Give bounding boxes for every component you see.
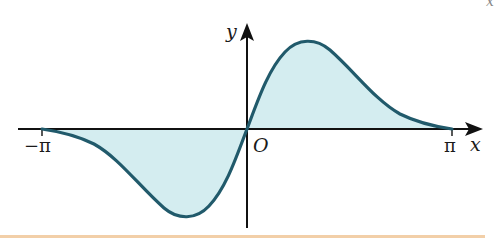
x-axis-label: x: [470, 133, 481, 155]
function-graph: y x O −π π x: [0, 0, 497, 241]
y-axis-label: y: [225, 20, 237, 42]
shaded-area-positive: [247, 41, 452, 129]
bottom-rule: [0, 235, 485, 238]
origin-label: O: [253, 134, 269, 156]
neg-pi-label: −π: [24, 135, 51, 156]
pos-pi-label: π: [444, 135, 456, 156]
corner-x-label: x: [486, 0, 494, 9]
shaded-area-negative: [42, 129, 247, 217]
